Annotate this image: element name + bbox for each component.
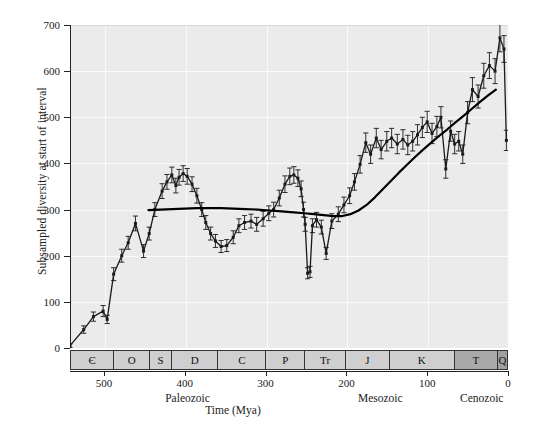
error-bars xyxy=(70,25,508,348)
x-tick-mark-400 xyxy=(185,371,186,376)
period-devonian[interactable]: D xyxy=(172,351,218,369)
x-axis-title: Time (Mya) xyxy=(0,404,542,416)
period-jurassic[interactable]: J xyxy=(346,351,389,369)
period-permian[interactable]: P xyxy=(266,351,305,369)
x-tick-200: 200 xyxy=(326,377,366,389)
x-tick-400: 400 xyxy=(165,377,205,389)
period-label: T xyxy=(473,354,480,366)
x-tick-mark-500 xyxy=(104,371,105,376)
x-tick-mark-200 xyxy=(346,371,347,376)
period-label: P xyxy=(282,354,288,366)
period-quaternary[interactable]: Q xyxy=(498,351,507,369)
y-tick-600: 600 xyxy=(0,71,70,83)
gridline-v-0 xyxy=(509,25,510,348)
period-cambrian[interactable]: Є xyxy=(71,351,114,369)
period-tertiary[interactable]: T xyxy=(455,351,498,369)
geologic-period-bar: ЄOSDCPTrJKTQ xyxy=(70,350,508,370)
x-axis-title-text: Time (Mya) xyxy=(205,404,260,416)
y-tick-400: 400 xyxy=(0,163,70,175)
data-series-line xyxy=(70,38,506,346)
period-label: D xyxy=(191,354,199,366)
y-tick-100: 100 xyxy=(0,302,70,314)
x-tick-mark-0 xyxy=(508,371,509,376)
period-ordovician[interactable]: O xyxy=(114,351,149,369)
chart-figure: Subsampled diversity at start of interva… xyxy=(0,0,542,431)
period-label: S xyxy=(158,354,164,366)
x-axis-line xyxy=(70,371,508,372)
period-label: Tr xyxy=(320,354,330,366)
y-tick-300: 300 xyxy=(0,210,70,222)
period-label: Q xyxy=(499,354,507,366)
y-tick-0: 0 xyxy=(0,348,70,360)
y-tick-500: 500 xyxy=(0,117,70,129)
x-tick-500: 500 xyxy=(84,377,124,389)
period-silurian[interactable]: S xyxy=(150,351,173,369)
y-tick-mark-0 xyxy=(64,348,70,349)
x-tick-mark-100 xyxy=(427,371,428,376)
period-label: C xyxy=(238,354,245,366)
period-carboniferous[interactable]: C xyxy=(218,351,266,369)
period-label: J xyxy=(365,354,369,366)
x-tick-300: 300 xyxy=(246,377,286,389)
data-layer xyxy=(70,25,508,348)
y-tick-200: 200 xyxy=(0,256,70,268)
era-label-paleozoic: Paleozoic xyxy=(128,392,248,404)
period-cretaceous[interactable]: K xyxy=(390,351,455,369)
period-label: Є xyxy=(89,354,96,366)
x-tick-mark-300 xyxy=(266,371,267,376)
period-label: K xyxy=(418,354,426,366)
period-triassic[interactable]: Tr xyxy=(305,351,346,369)
x-tick-0: 0 xyxy=(488,377,528,389)
y-tick-700: 700 xyxy=(0,25,70,37)
period-label: O xyxy=(128,354,136,366)
era-label-cenozoic: Cenozoic xyxy=(422,392,542,404)
x-tick-100: 100 xyxy=(407,377,447,389)
data-point-markers xyxy=(70,36,508,347)
